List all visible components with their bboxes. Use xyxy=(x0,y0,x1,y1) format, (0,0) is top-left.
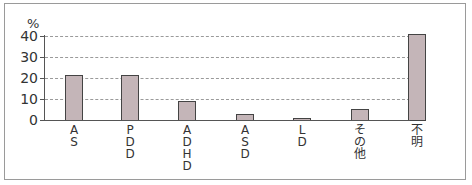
x-label-3: ASD xyxy=(235,124,255,160)
bar-1 xyxy=(121,75,139,121)
y-axis xyxy=(44,35,45,121)
gridline-30 xyxy=(45,57,410,58)
bar-0 xyxy=(65,75,83,121)
gridline-20 xyxy=(45,78,410,79)
x-label-1: PDD xyxy=(120,124,140,160)
x-label-6: 不明 xyxy=(407,124,427,148)
y-tick-40: 40 xyxy=(16,29,38,43)
x-label-5: その他 xyxy=(350,124,370,160)
gridline-40 xyxy=(45,36,410,37)
x-label-0: AS xyxy=(64,124,84,148)
y-tick-30: 30 xyxy=(16,50,38,64)
bar-chart: % 40 30 20 10 0 ASPDDADHDASDLDその他不明 xyxy=(0,0,472,185)
y-tick-20: 20 xyxy=(16,71,38,85)
x-label-2: ADHD xyxy=(177,124,197,172)
x-axis xyxy=(44,120,410,121)
y-tick-10: 10 xyxy=(16,92,38,106)
y-tick-0: 0 xyxy=(16,113,38,127)
bar-2 xyxy=(178,101,196,121)
x-label-4: LD xyxy=(292,124,312,148)
gridline-10 xyxy=(45,99,410,100)
bar-6 xyxy=(408,34,426,121)
